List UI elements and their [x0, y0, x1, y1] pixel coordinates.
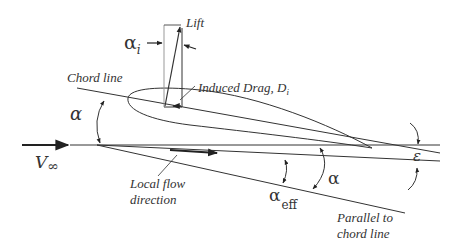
lift-label: Lift [185, 15, 204, 30]
local-flow-line [97, 145, 440, 161]
local-flow-label-1: Local flow [129, 176, 186, 191]
alpha-eff-label: αeff [269, 185, 299, 212]
alpha-i-arrow-right [184, 45, 196, 49]
alpha-arc-left [97, 101, 104, 143]
alpha-eff-arc [283, 160, 287, 183]
epsilon-arc-top [410, 123, 418, 144]
epsilon-arc-bottom [408, 168, 417, 190]
induced-drag-label: Induced Drag, Di [197, 80, 289, 97]
local-flow-leader [158, 155, 177, 176]
parallel-chord-label-2: chord line [337, 226, 390, 241]
local-flow-label-2: direction [130, 192, 176, 207]
alpha-i-label: αi [124, 31, 141, 57]
epsilon-label: ε [413, 147, 421, 165]
v-infinity-label: V∞ [35, 152, 59, 174]
airfoil-diagram: αi Lift Induced Drag, Di Chord line α V∞… [0, 0, 463, 250]
alpha-left-label: α [70, 103, 82, 124]
lift-vector [165, 27, 180, 106]
chord-line [77, 88, 440, 153]
alpha-arc-right [313, 148, 325, 189]
chord-line-label: Chord line [67, 70, 123, 85]
alpha-right-label: α [328, 168, 340, 188]
airfoil-shape [128, 88, 372, 148]
parallel-chord-label-1: Parallel to [336, 210, 393, 225]
